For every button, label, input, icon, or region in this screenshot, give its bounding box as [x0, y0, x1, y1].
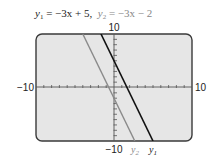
y1-label-sub: 1	[153, 149, 157, 157]
x-max-label: 10	[195, 82, 207, 93]
y-min-label: −10	[106, 144, 123, 155]
y1-label: y1	[148, 144, 157, 157]
graph-svg: 10 −10 10 −10 y2 y1	[0, 0, 216, 161]
y2-label: y2	[130, 144, 139, 157]
x-min-label: −10	[17, 82, 34, 93]
y2-label-sub: 2	[135, 149, 139, 157]
y-max-label: 10	[108, 22, 120, 33]
